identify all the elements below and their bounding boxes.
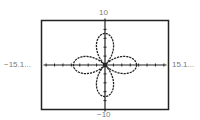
graph-window	[0, 0, 200, 120]
